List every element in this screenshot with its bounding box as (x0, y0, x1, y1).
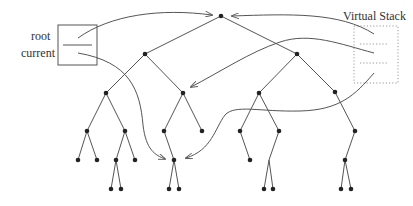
tree-node (219, 14, 224, 19)
tree-node (353, 129, 358, 134)
tree-node (271, 187, 276, 192)
tree-node (162, 129, 167, 134)
tree-edge (335, 92, 355, 131)
tree-node (85, 129, 90, 134)
tree-node (95, 158, 100, 163)
tree-node (333, 90, 338, 95)
tree-edge (183, 93, 202, 131)
tree-node (339, 187, 344, 192)
tree-node (172, 158, 177, 163)
tree-node (262, 187, 267, 192)
tree-node (109, 187, 114, 192)
tree-node (295, 52, 300, 57)
tree-edge (87, 131, 97, 160)
tree-node (167, 187, 172, 192)
tree-node (123, 129, 128, 134)
tree-node (76, 158, 81, 163)
tree-node (119, 187, 124, 192)
tree-edge (164, 93, 183, 131)
tree-edge (269, 160, 273, 189)
tree-edge (259, 93, 279, 131)
tree-edge (116, 160, 121, 189)
root-label: root (31, 30, 50, 42)
tree-edge (125, 131, 135, 160)
tree-edge (111, 160, 116, 189)
tree-edge (116, 131, 125, 160)
tree-edge (264, 160, 269, 189)
virtual-stack-box (354, 26, 398, 83)
stack-entry-2-arrow (191, 38, 374, 87)
tree-node (257, 91, 262, 96)
tree-edge (221, 16, 297, 54)
tree-node (177, 187, 182, 192)
tree-node (200, 129, 205, 134)
tree-edge (106, 93, 125, 131)
tree-edge (145, 54, 183, 93)
tree-edge (297, 54, 335, 92)
tree-edge (345, 160, 351, 189)
pointer-arrows (78, 12, 374, 159)
stack-frame (354, 26, 398, 83)
pointer-box (58, 25, 97, 65)
tree-node (143, 52, 148, 57)
tree-node (343, 158, 348, 163)
tree-node (133, 158, 138, 163)
tree-node (104, 91, 109, 96)
stack-entry-3-arrow (186, 73, 374, 158)
tree-edge (341, 160, 345, 189)
tree-branch-edges (264, 131, 279, 189)
tree-node (248, 158, 253, 163)
tree-edge (145, 16, 221, 54)
tree-edge (169, 160, 174, 189)
tree-edge (174, 160, 179, 189)
tree-edge (87, 93, 106, 131)
tree-node (277, 129, 282, 134)
tree-edge (240, 93, 259, 131)
current-label: current (21, 47, 55, 59)
tree-edges (78, 16, 355, 189)
virtual-stack-title: Virtual Stack (343, 10, 406, 22)
tree-edge (164, 131, 174, 160)
tree-node (349, 187, 354, 192)
tree-edge (78, 131, 87, 160)
tree-edge (106, 54, 145, 93)
tree-node (181, 91, 186, 96)
root-pointer-arrow (78, 12, 212, 38)
tree-nodes (76, 14, 358, 192)
tree-edge (240, 131, 250, 160)
tree-node (238, 129, 243, 134)
tree-edge (259, 54, 297, 93)
traversal-diagram (0, 0, 413, 206)
tree-node (114, 158, 119, 163)
tree-edge (269, 131, 279, 160)
tree-edge (345, 131, 355, 160)
